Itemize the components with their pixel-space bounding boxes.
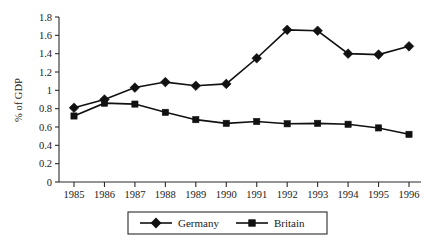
- legend-label: Germany: [178, 217, 219, 229]
- y-tick-label: 1.6: [39, 30, 52, 41]
- data-point-square: [375, 125, 381, 131]
- y-tick-label: 1: [47, 85, 52, 96]
- data-point-square: [223, 120, 229, 126]
- y-tick-label: 0.6: [39, 122, 52, 133]
- x-tick-label: 1987: [124, 189, 145, 200]
- series-germany: [69, 25, 414, 113]
- x-tick-label: 1994: [338, 189, 360, 200]
- x-tick-label: 1996: [399, 189, 420, 200]
- data-point-diamond: [69, 103, 79, 113]
- x-tick-label: 1991: [246, 189, 267, 200]
- y-tick-label: 0.4: [39, 140, 53, 151]
- x-tick-label: 1995: [368, 189, 389, 200]
- data-point-square: [406, 131, 412, 137]
- series-layer: [69, 25, 414, 137]
- data-point-square: [101, 100, 107, 106]
- data-point-diamond: [191, 81, 201, 91]
- y-axis-label: % of GDP: [13, 78, 24, 122]
- x-tick-label: 1985: [64, 189, 85, 200]
- legend-label: Britain: [274, 217, 305, 229]
- y-axis-label-text: % of GDP: [13, 78, 24, 122]
- chart-container: % of GDP 00.20.40.60.811.21.41.61.8 1985…: [0, 0, 431, 250]
- x-tick-label: 1986: [94, 189, 115, 200]
- y-tick-label: 1.4: [39, 48, 53, 59]
- data-point-square: [71, 113, 77, 119]
- y-tick-label: 0.2: [39, 158, 52, 169]
- data-point-diamond: [130, 83, 140, 93]
- data-point-square: [315, 120, 321, 126]
- x-tick-label: 1993: [307, 189, 328, 200]
- chart-legend: GermanyBritain: [128, 212, 327, 234]
- y-tick-label: 1.8: [39, 12, 52, 23]
- data-point-square: [254, 118, 260, 124]
- y-axis-ticks: 00.20.40.60.811.21.41.61.8: [39, 12, 59, 188]
- x-axis-ticks: 1985198619871988198919901991199219931994…: [64, 182, 420, 200]
- y-tick-label: 1.2: [39, 67, 52, 78]
- data-point-square: [284, 121, 290, 127]
- data-point-square: [132, 101, 138, 107]
- y-tick-label: 0.8: [39, 103, 52, 114]
- data-point-square: [162, 109, 168, 115]
- data-point-square: [345, 121, 351, 127]
- data-point-square: [193, 117, 199, 123]
- y-tick-label: 0: [47, 177, 52, 188]
- x-tick-label: 1990: [216, 189, 237, 200]
- data-point-diamond: [161, 77, 171, 87]
- line-chart: % of GDP 00.20.40.60.811.21.41.61.8 1985…: [0, 0, 431, 250]
- x-tick-label: 1989: [185, 189, 206, 200]
- series-line: [74, 30, 409, 108]
- x-tick-label: 1988: [155, 189, 176, 200]
- x-tick-label: 1992: [277, 189, 298, 200]
- legend-marker-square: [249, 220, 256, 227]
- data-point-diamond: [374, 50, 384, 60]
- data-point-diamond: [404, 41, 414, 51]
- series-britain: [71, 100, 412, 137]
- series-line: [74, 103, 409, 134]
